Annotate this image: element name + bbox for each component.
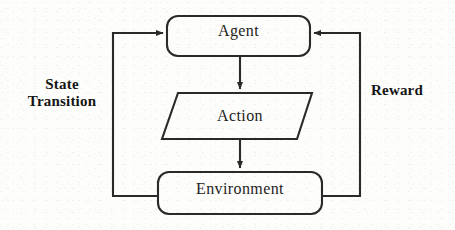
edge-state-transition [113, 33, 163, 196]
edge-state-transition-label: State Transition [18, 76, 106, 110]
node-agent-label: Agent [167, 22, 310, 40]
diagram-canvas: Agent Action Environment State Transitio… [0, 0, 455, 230]
node-environment-label: Environment [158, 180, 322, 198]
edge-reward-label: Reward [371, 82, 423, 99]
edge-state-transition-label-line1: State [18, 76, 106, 93]
edge-reward [314, 33, 360, 196]
edge-state-transition-label-line2: Transition [18, 93, 106, 110]
node-action-label: Action [170, 107, 310, 125]
